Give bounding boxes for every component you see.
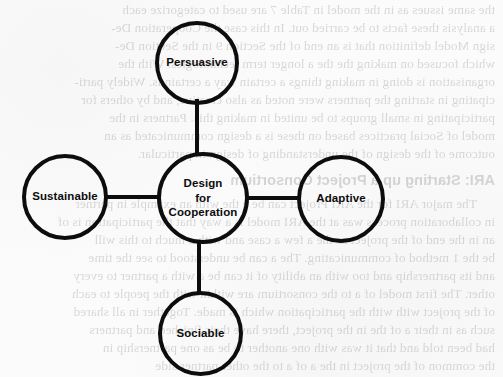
node-design-for-cooperation[interactable]: Design for Cooperation bbox=[157, 152, 249, 244]
connector-center-to-adaptive bbox=[245, 196, 300, 200]
node-adaptive[interactable]: Adaptive bbox=[297, 155, 385, 243]
design-for-cooperation-diagram: Persuasive Sustainable Design for Cooper… bbox=[0, 0, 503, 377]
node-design-for-cooperation-label: Design for Cooperation bbox=[169, 176, 238, 220]
connector-center-to-sociable bbox=[197, 242, 201, 294]
connector-center-to-persuasive bbox=[195, 99, 199, 154]
node-sociable[interactable]: Sociable bbox=[158, 291, 243, 376]
diagram-canvas: the same issues as in the model in Table… bbox=[0, 0, 503, 377]
node-sustainable[interactable]: Sustainable bbox=[22, 154, 108, 240]
node-sustainable-label: Sustainable bbox=[32, 190, 98, 204]
node-persuasive[interactable]: Persuasive bbox=[155, 21, 239, 105]
node-adaptive-label: Adaptive bbox=[316, 192, 365, 206]
node-sociable-label: Sociable bbox=[176, 327, 224, 341]
node-persuasive-label: Persuasive bbox=[166, 56, 228, 70]
connector-center-to-sustainable bbox=[104, 195, 160, 199]
